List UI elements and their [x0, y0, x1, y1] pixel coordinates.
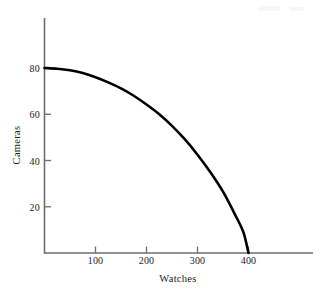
x-axis-ticks [96, 247, 249, 254]
x-axis-tick-label: 100 [88, 255, 104, 266]
chart-figure: 100200300400 20406080 Watches Cameras [0, 0, 330, 295]
x-axis-title: Watches [159, 273, 196, 284]
x-axis-tick-label: 200 [139, 255, 155, 266]
plot-area [0, 0, 330, 295]
ppf-curve [45, 68, 249, 253]
y-axis-tick-label: 60 [18, 109, 40, 120]
y-axis-title: Cameras [11, 126, 22, 165]
axes [44, 18, 313, 254]
y-axis-tick-label: 20 [18, 201, 40, 212]
y-axis-tick-label: 80 [18, 63, 40, 74]
y-axis-ticks [45, 68, 52, 207]
x-axis-tick-label: 300 [190, 255, 206, 266]
x-axis-tick-label: 400 [241, 255, 257, 266]
